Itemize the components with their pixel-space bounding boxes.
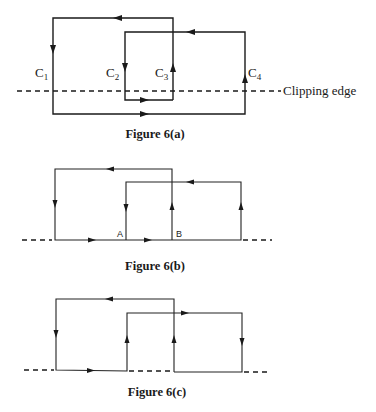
arrow-left-icon [186, 180, 194, 185]
figure-6a: C1 C2 C3 C4 Clipping edge Figure 6(a) [17, 15, 357, 141]
arrow-down-icon [50, 45, 56, 54]
arrow-right-icon [144, 238, 152, 243]
clipped-polygon-outline [55, 169, 241, 240]
figure-6c-caption: Figure 6(c) [128, 385, 186, 399]
arrow-up-icon [170, 202, 175, 210]
edge-label-c4: C4 [248, 65, 262, 82]
point-b-label: B [176, 229, 182, 239]
arrow-right-icon [140, 97, 149, 103]
arrow-up-icon [239, 202, 244, 210]
arrow-down-icon [53, 200, 58, 208]
arrow-left-icon [113, 15, 122, 21]
arrow-down-icon [240, 338, 245, 346]
left-polygon-outline [56, 299, 242, 372]
figure-6b-caption: Figure 6(b) [125, 259, 185, 273]
arrow-up-icon [172, 335, 177, 343]
arrow-right-icon [181, 311, 189, 316]
edge-label-c3: C3 [155, 65, 169, 82]
arrow-left-icon [105, 297, 113, 302]
clipping-edge-label: Clipping edge [283, 83, 357, 98]
edge-label-c2: C2 [106, 65, 119, 82]
arrow-left-icon [186, 29, 195, 35]
arrow-up-icon [125, 335, 130, 343]
arrow-down-icon [124, 204, 129, 212]
figure-6a-caption: Figure 6(a) [125, 127, 184, 141]
arrow-left-icon [106, 167, 114, 172]
arrow-down-icon [122, 63, 128, 72]
polygon-1-outline [53, 18, 245, 114]
arrow-right-icon [140, 111, 149, 117]
arrow-up-icon [170, 63, 176, 72]
figure-6b: A B Figure 6(b) [22, 167, 272, 274]
arrow-right-icon [87, 368, 95, 373]
point-a-label: A [117, 229, 123, 239]
figure-6c: Figure 6(c) [24, 297, 270, 400]
arrow-right-icon [88, 238, 96, 243]
edge-label-c1: C1 [35, 65, 48, 82]
arrow-down-icon [54, 330, 59, 338]
